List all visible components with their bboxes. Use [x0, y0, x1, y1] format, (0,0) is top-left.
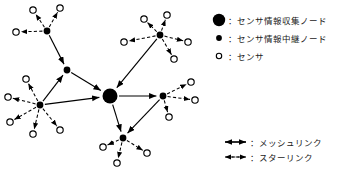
star-link — [118, 142, 122, 158]
sensor-node — [57, 127, 63, 133]
sensor-nodes-group — [5, 5, 198, 166]
star-link — [168, 97, 190, 100]
star-link — [13, 98, 36, 104]
collection-node — [103, 89, 118, 104]
mesh-link — [71, 73, 101, 91]
network-diagram-figure: ：センサ情報収集ノード ：センサ情報中継ノード ：センサ ：メッシュリンク ：ス… — [0, 0, 348, 172]
sensor-node — [100, 144, 106, 150]
sensor-node — [171, 56, 177, 62]
star-link — [127, 140, 143, 150]
relay-node — [37, 102, 44, 109]
star-link — [148, 23, 157, 32]
mesh-link — [43, 75, 63, 101]
mesh-link — [113, 105, 121, 132]
sensor-node — [30, 7, 36, 13]
star-link — [162, 39, 171, 55]
star-link — [129, 36, 156, 41]
mesh-link — [49, 35, 64, 64]
collection-nodes-group — [103, 89, 118, 104]
star-link — [164, 36, 183, 41]
star-link — [21, 31, 42, 32]
legend-node-item-1-label: ：センサ情報中継ノード — [228, 34, 327, 44]
relay-node — [160, 93, 167, 100]
sensor-node — [7, 119, 13, 125]
mesh-link — [128, 100, 160, 134]
star-link — [108, 140, 119, 145]
sensor-node — [166, 114, 172, 120]
star-link — [167, 84, 186, 94]
mesh-links-group — [43, 35, 160, 133]
sensor-node — [188, 79, 194, 85]
legend-large-filled-circle-icon — [213, 14, 225, 26]
relay-node — [44, 28, 51, 35]
star-link — [28, 83, 37, 101]
sensor-node — [121, 39, 127, 45]
mesh-link — [45, 97, 100, 104]
sensor-node — [164, 12, 170, 18]
star-link — [49, 12, 57, 27]
star-link — [164, 100, 167, 112]
sensor-node — [57, 5, 63, 11]
relay-node — [120, 135, 127, 142]
star-link — [43, 109, 57, 127]
legend-nodes: ：センサ情報収集ノード ：センサ情報中継ノード ：センサ — [213, 14, 327, 62]
mesh-link — [117, 39, 157, 88]
legend-node-item-2-label: ：センサ — [228, 52, 264, 62]
sensor-node — [141, 16, 147, 22]
legend-links: ：メッシュリンク ：スターリンク — [225, 138, 322, 163]
legend-open-circle-icon — [216, 53, 221, 58]
diagram-canvas: ：センサ情報収集ノード ：センサ情報中継ノード ：センサ ：メッシュリンク ：ス… — [0, 0, 348, 172]
star-link — [36, 14, 45, 27]
sensor-node — [30, 131, 36, 137]
sensor-node — [23, 76, 29, 82]
star-link — [14, 107, 36, 119]
sensor-node — [185, 39, 191, 45]
sensor-node — [5, 94, 11, 100]
legend-small-filled-circle-icon — [216, 35, 222, 41]
star-links-group — [13, 12, 190, 158]
relay-node — [64, 67, 71, 74]
legend-link-item-1-label: ：スターリンク — [250, 153, 313, 163]
sensor-node — [13, 29, 19, 35]
relay-node — [157, 32, 164, 39]
star-link — [162, 20, 166, 31]
sensor-node — [114, 160, 120, 166]
sensor-node — [144, 150, 150, 156]
star-link — [34, 109, 39, 129]
legend-link-item-0-label: ：メッシュリンク — [250, 138, 322, 148]
sensor-node — [192, 97, 198, 103]
legend-node-item-0-label: ：センサ情報収集ノード — [228, 16, 327, 26]
